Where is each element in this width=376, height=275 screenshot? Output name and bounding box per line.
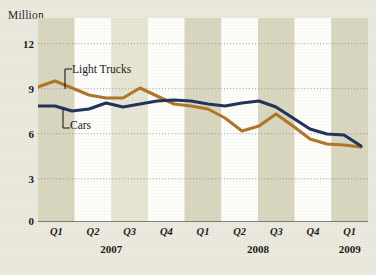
x-tick-q2-2008: Q2 bbox=[221, 226, 258, 237]
chart-figure: Million bbox=[0, 0, 376, 275]
x-tick-q4-2007: Q4 bbox=[148, 226, 185, 237]
y-tick-0: 0 bbox=[12, 215, 34, 227]
x-tick-q1-2007: Q1 bbox=[38, 226, 75, 237]
x-year-label-2009: 2009 bbox=[331, 243, 368, 255]
y-tick-9: 9 bbox=[12, 83, 34, 95]
x-tick-q4-2008: Q4 bbox=[295, 226, 332, 237]
x-tick-q3-2007: Q3 bbox=[111, 226, 148, 237]
x-tick-q1-2009: Q1 bbox=[331, 226, 368, 237]
y-tick-12: 12 bbox=[12, 38, 34, 50]
x-year-label-2008: 2008 bbox=[185, 243, 332, 255]
series-label-light-trucks: Light Trucks bbox=[72, 63, 131, 75]
light-trucks-leader-line bbox=[64, 68, 74, 90]
x-tick-q3-2008: Q3 bbox=[258, 226, 295, 237]
series-label-cars: Cars bbox=[70, 119, 91, 131]
x-year-label-2007: 2007 bbox=[38, 243, 185, 255]
cars-leader-line bbox=[62, 108, 72, 130]
x-tick-q2-2007: Q2 bbox=[75, 226, 112, 237]
x-tick-q1-2008: Q1 bbox=[185, 226, 222, 237]
y-tick-3: 3 bbox=[12, 173, 34, 185]
y-tick-6: 6 bbox=[12, 128, 34, 140]
